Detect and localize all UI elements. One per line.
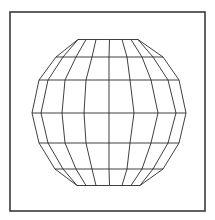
- longitude-line: [131, 40, 158, 186]
- longitude-line: [109, 40, 110, 186]
- wireframe-sphere-figure: [0, 0, 215, 220]
- longitude-line: [41, 40, 78, 186]
- longitude-line: [32, 40, 78, 186]
- longitude-line: [122, 40, 134, 186]
- longitude-line: [62, 40, 86, 186]
- longitude-line: [138, 40, 186, 186]
- longitude-lines: [32, 40, 186, 186]
- longitude-line: [84, 40, 96, 186]
